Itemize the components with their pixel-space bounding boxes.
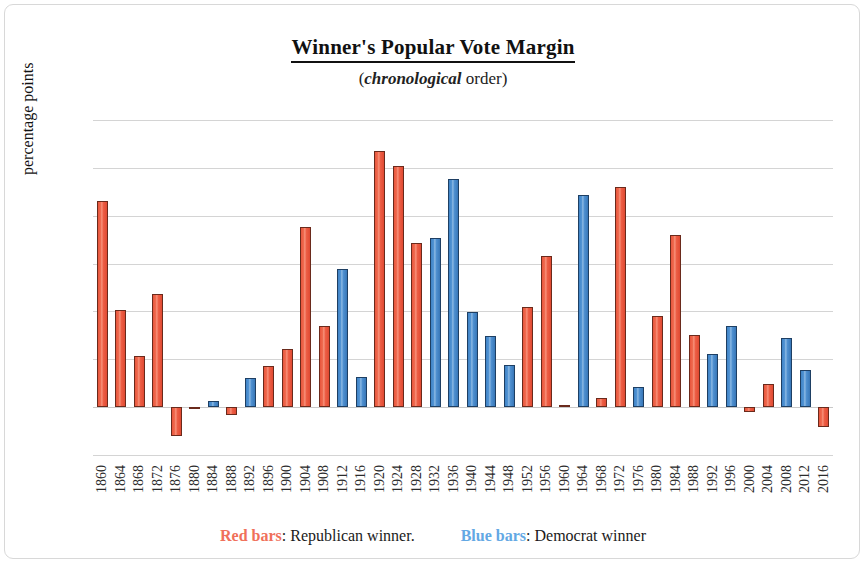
x-tick-label: 2012 — [798, 479, 812, 493]
bar — [633, 387, 644, 407]
x-tick-label: 1932 — [428, 479, 442, 493]
chart-card: Winner's Popular Vote Margin (chronologi… — [4, 4, 860, 559]
bar — [189, 407, 200, 409]
subtitle-suffix: order) — [462, 69, 508, 88]
chart-subtitle: (chronological order) — [5, 69, 861, 89]
bar — [726, 326, 737, 407]
bar — [485, 336, 496, 407]
legend-blue-text: Democrat winner — [534, 527, 646, 544]
x-tick-label: 1988 — [687, 479, 701, 493]
bar — [115, 310, 126, 407]
legend-entry-democrat: Blue bars: Democrat winner — [461, 527, 646, 545]
x-tick-label: 1940 — [465, 479, 479, 493]
bar — [430, 238, 441, 407]
bar — [615, 187, 626, 407]
bar — [374, 151, 385, 408]
bar — [337, 269, 348, 407]
gridline — [93, 455, 833, 456]
x-tick-label: 2000 — [743, 479, 757, 493]
bar — [818, 407, 829, 427]
x-tick-label: 1872 — [151, 479, 165, 493]
bar — [226, 407, 237, 415]
bar — [670, 235, 681, 407]
bar — [763, 384, 774, 407]
legend-blue-label: Blue bars — [461, 527, 526, 544]
x-tick-label: 1900 — [280, 479, 294, 493]
bar — [152, 294, 163, 407]
x-tick-label: 1956 — [539, 479, 553, 493]
x-tick-label: 1860 — [95, 479, 109, 493]
x-tick-label: 1992 — [706, 479, 720, 493]
x-tick-label: 1864 — [114, 479, 128, 493]
bar — [393, 166, 404, 407]
x-tick-label: 1924 — [391, 479, 405, 493]
bar — [541, 256, 552, 407]
bar — [448, 179, 459, 407]
x-tick-label: 1888 — [225, 479, 239, 493]
page-title: Winner's Popular Vote Margin — [291, 35, 574, 63]
x-tick-label: 1968 — [595, 479, 609, 493]
bar — [504, 365, 515, 407]
x-tick-label: 1920 — [373, 479, 387, 493]
x-tick-label: 1952 — [521, 479, 535, 493]
bar — [263, 366, 274, 407]
bar — [97, 201, 108, 407]
x-tick-label: 2004 — [761, 479, 775, 493]
x-tick-label: 1880 — [188, 479, 202, 493]
x-tick-label: 1948 — [502, 479, 516, 493]
bar — [208, 401, 219, 407]
bar — [596, 398, 607, 408]
y-axis-label: percentage points — [19, 63, 37, 175]
legend-red-separator: : — [282, 527, 290, 544]
x-tick-label: 1944 — [484, 479, 498, 493]
bar — [707, 354, 718, 408]
bar — [559, 405, 570, 407]
bar — [781, 338, 792, 407]
bar — [171, 407, 182, 436]
x-tick-label: 1972 — [613, 479, 627, 493]
x-tick-label: 1904 — [299, 479, 313, 493]
x-tick-label: 1964 — [576, 479, 590, 493]
x-tick-label: 1876 — [169, 479, 183, 493]
x-tick-label: 1896 — [262, 479, 276, 493]
x-tick-label: 1936 — [447, 479, 461, 493]
x-tick-label: 1960 — [558, 479, 572, 493]
legend-entry-republican: Red bars: Republican winner. — [220, 527, 415, 545]
x-tick-label: 1892 — [243, 479, 257, 493]
bar — [319, 326, 330, 407]
bar — [689, 335, 700, 407]
bar — [522, 307, 533, 408]
x-tick-label: 1916 — [354, 479, 368, 493]
x-tick-label: 1912 — [336, 479, 350, 493]
x-tick-label: 1996 — [724, 479, 738, 493]
bar — [282, 349, 293, 407]
bar — [800, 370, 811, 407]
bar — [652, 316, 663, 407]
x-axis-ticks: 1860186418681872187618801884188818921896… — [93, 457, 833, 519]
x-tick-label: 2008 — [780, 479, 794, 493]
x-tick-label: 1908 — [317, 479, 331, 493]
x-tick-label: 1868 — [132, 479, 146, 493]
plot-area: 302520151050-5 — [93, 120, 833, 455]
bar — [356, 377, 367, 407]
bar — [744, 407, 755, 412]
bar — [134, 356, 145, 407]
legend-red-label: Red bars — [220, 527, 282, 544]
legend: Red bars: Republican winner.Blue bars: D… — [5, 527, 861, 545]
x-tick-label: 1884 — [206, 479, 220, 493]
bar — [578, 195, 589, 407]
bar — [300, 227, 311, 407]
legend-red-text: Republican winner. — [290, 527, 414, 544]
x-tick-label: 2016 — [817, 479, 831, 493]
x-tick-label: 1984 — [669, 479, 683, 493]
bar-series — [93, 120, 833, 455]
bar — [467, 312, 478, 407]
title-block: Winner's Popular Vote Margin (chronologi… — [5, 35, 861, 89]
x-tick-label: 1928 — [410, 479, 424, 493]
x-tick-label: 1976 — [632, 479, 646, 493]
subtitle-emphasis: chronological — [364, 69, 461, 88]
bar — [245, 378, 256, 407]
x-tick-label: 1980 — [650, 479, 664, 493]
bar — [411, 243, 422, 408]
